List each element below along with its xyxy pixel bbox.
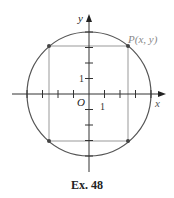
point-bottom-left xyxy=(47,139,51,143)
diagram: y x O 1 1 P(x, y) xyxy=(0,0,174,198)
point-top-left xyxy=(47,44,51,48)
origin-label: O xyxy=(77,96,85,108)
y-tick-label: 1 xyxy=(79,73,84,84)
x-tick-label: 1 xyxy=(100,101,105,112)
caption: Ex. 48 xyxy=(0,178,174,193)
point-label: P(x, y) xyxy=(127,33,158,46)
point-bottom-right xyxy=(126,139,130,143)
x-axis-label: x xyxy=(154,97,160,109)
y-axis-arrow-icon xyxy=(86,14,92,22)
y-axis-label: y xyxy=(77,12,83,24)
